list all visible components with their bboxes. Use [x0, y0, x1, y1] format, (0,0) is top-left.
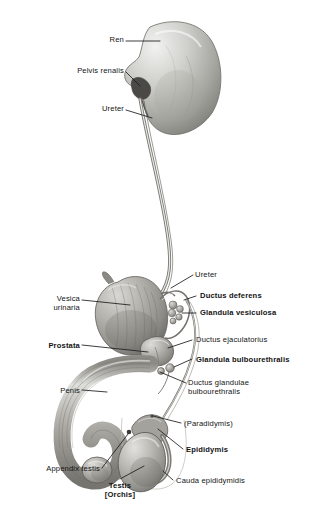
anatomical-plate: Ren Pelvis renalis Ureter Vesica urinari… [0, 0, 328, 520]
label-ductus-ejaculatorius: Ductus ejaculatorius [196, 335, 322, 344]
bulbourethral-gland [166, 364, 174, 372]
label-glandula-vesiculosa: Glandula vesiculosa [200, 308, 326, 317]
label-pelvis-renalis: Pelvis renalis [38, 66, 124, 75]
label-ductus-glandulae-bulbourethralis: Ductus glandulae bulbourethralis [188, 378, 300, 397]
kidney-group [125, 22, 221, 135]
label-glandula-bulbourethralis: Glandula bulbourethralis [196, 355, 328, 364]
label-cauda-epididymidis: Cauda epididymidis [176, 476, 296, 485]
label-vesica-urinaria: Vesica urinaria [22, 294, 80, 313]
label-ureter-lower: Ureter [195, 270, 255, 279]
label-ductus-deferens: Ductus deferens [200, 291, 312, 300]
leader-ureter-lower [171, 275, 193, 288]
label-epididymis: Epididymis [186, 445, 270, 454]
label-ureter-upper: Ureter [78, 104, 124, 113]
appendix-testis-nodule [127, 430, 132, 435]
seminal-vesicle-lobes [168, 301, 183, 324]
label-prostata: Prostata [14, 341, 80, 350]
label-ren: Ren [78, 35, 124, 44]
label-testis-orchis: Testis [Orchis] [89, 481, 151, 500]
label-penis: Penis [32, 386, 80, 395]
anatomy-illustration [0, 0, 328, 520]
leader-ductus-gl-bulbo [160, 372, 186, 383]
label-paradidymis: (Paradidymis) [184, 419, 274, 428]
label-appendix-testis: Appendix testis [14, 464, 100, 473]
